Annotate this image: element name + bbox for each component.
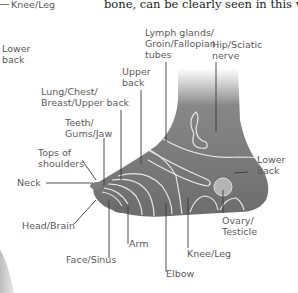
previous-figure-edge	[0, 250, 14, 293]
label-hip-sciatic: Hip/Sciatic nerve	[212, 39, 262, 61]
label-elbow: Elbow	[166, 268, 194, 279]
label-upper-back: Upper back	[122, 66, 151, 88]
label-arm: Arm	[129, 238, 149, 249]
label-lymph-groin-fallopian: Lymph glands/ Groin/Fallopian tubes	[145, 27, 216, 60]
label-tops-of-shoulders: Tops of shoulders	[38, 147, 84, 169]
label-lung-chest: Lung/Chest/ Breast/Upper back	[41, 86, 129, 108]
label-knee-leg: Knee/Leg	[187, 248, 231, 259]
label-face-sinus: Face/Sinus	[66, 254, 116, 265]
label-teeth-gums-jaw: Teeth/ Gums/Jaw	[65, 117, 112, 139]
label-ovary-testicle: Ovary/ Testicle	[222, 215, 257, 237]
label-neck: Neck	[17, 177, 41, 188]
label-head-brain: Head/Brain	[22, 220, 75, 231]
label-lower-back: Lower back	[257, 154, 285, 176]
